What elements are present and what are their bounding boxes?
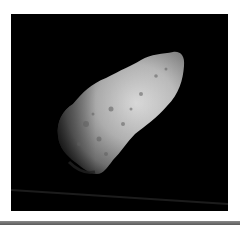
asteroid-photo (11, 14, 228, 211)
asteroid-graphic (11, 14, 228, 211)
bottom-rule (0, 221, 240, 225)
